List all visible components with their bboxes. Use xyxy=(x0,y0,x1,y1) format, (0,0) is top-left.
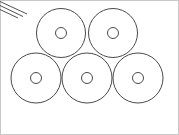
ring-bottom-left-inner-hole xyxy=(31,73,42,84)
ring-top-left-inner-hole xyxy=(56,28,67,39)
ring-top-left xyxy=(37,9,86,58)
hatch-line-3 xyxy=(0,10,18,19)
corner-hatch-icon xyxy=(0,2,27,19)
bottom-row-rings xyxy=(11,53,163,103)
top-row-rings xyxy=(37,9,138,58)
ring-bottom-right-inner-hole xyxy=(133,73,144,84)
ring-top-right xyxy=(89,9,138,58)
figure-container xyxy=(0,0,179,135)
ring-bottom-right xyxy=(113,53,163,103)
ring-top-right-inner-hole xyxy=(108,28,119,39)
rings-diagram xyxy=(0,0,179,135)
ring-bottom-left xyxy=(11,53,61,103)
ring-bottom-center xyxy=(62,53,112,103)
ring-bottom-center-inner-hole xyxy=(82,73,93,84)
